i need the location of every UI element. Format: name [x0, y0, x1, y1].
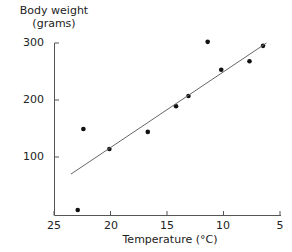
axis-ticks: [54, 43, 280, 216]
axes: [55, 43, 282, 216]
data-point: [219, 67, 224, 72]
plot-area: [0, 0, 292, 252]
data-series: [71, 40, 266, 213]
data-point: [81, 127, 86, 132]
data-point: [247, 59, 252, 64]
data-point: [75, 208, 80, 213]
data-point: [145, 130, 150, 135]
regression-line: [71, 43, 266, 174]
data-point: [205, 40, 210, 45]
